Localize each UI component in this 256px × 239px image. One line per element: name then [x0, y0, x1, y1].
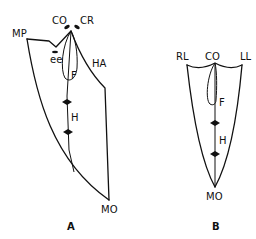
figure-b-right-edge — [215, 65, 242, 187]
figure-b-label-rl: RL — [176, 51, 189, 62]
diagram-canvas: CO CR MP ee HA F H MO A RL CO LL F H MO … — [0, 0, 256, 239]
figure-a-label-ha: HA — [92, 58, 107, 69]
figure-a-label-cr: CR — [80, 15, 94, 26]
figure-a-label-ee: ee — [50, 54, 62, 65]
figure-a: CO CR MP ee HA F H MO A — [12, 15, 118, 232]
figure-b-label-f: F — [219, 97, 225, 108]
figure-a-diamond-upper-icon — [62, 99, 72, 105]
figure-b-diamond-lower-icon — [210, 151, 220, 157]
figure-a-ee-mark-icon — [52, 51, 58, 54]
figure-b-label-mo: MO — [206, 191, 223, 202]
figure-a-label-mo: MO — [101, 204, 118, 215]
figure-b: RL CO LL F H MO B — [176, 51, 252, 232]
figure-b-label-co: CO — [205, 51, 220, 62]
figure-a-caption: A — [67, 221, 75, 232]
figure-a-label-co: CO — [52, 15, 67, 26]
figure-a-top-outline — [27, 31, 71, 47]
figure-a-label-mp: MP — [12, 28, 27, 39]
figure-a-diamond-lower-icon — [63, 129, 73, 135]
figure-a-label-f: F — [71, 70, 77, 81]
figure-b-diamond-upper-icon — [210, 120, 220, 126]
figure-b-caption: B — [212, 221, 220, 232]
figure-a-label-h: H — [71, 112, 79, 123]
figure-b-label-ll: LL — [240, 51, 252, 62]
figure-b-label-h: H — [219, 135, 227, 146]
figure-b-left-edge — [187, 65, 215, 187]
